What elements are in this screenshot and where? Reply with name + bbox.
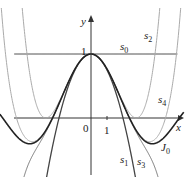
- label-s1: s1: [120, 154, 128, 168]
- y-axis-label: y: [81, 16, 86, 27]
- x-axis-label: x: [176, 122, 181, 133]
- origin-label: 0: [83, 123, 89, 134]
- y-tick-label-1: 1: [81, 46, 87, 57]
- x-tick-label-1: 1: [104, 125, 110, 136]
- label-s2: s2: [144, 30, 152, 44]
- chart-plot: [0, 0, 185, 177]
- label-s0: s0: [120, 41, 128, 55]
- y-axis-arrow-icon: [88, 15, 94, 22]
- label-J0: J0: [161, 142, 170, 156]
- label-s4: s4: [158, 94, 166, 108]
- label-s3: s3: [137, 156, 145, 170]
- curve-J0: [0, 54, 184, 144]
